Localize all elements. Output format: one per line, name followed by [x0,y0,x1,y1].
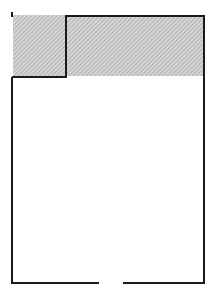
marker-icon [11,12,13,17]
hatched-region [13,15,204,76]
floor-plan [0,0,215,297]
wall-outline-lower-left [12,77,99,283]
